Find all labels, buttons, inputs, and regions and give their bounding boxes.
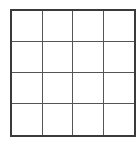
grid-cell-r3-c2 — [43, 73, 74, 104]
grid-cell-r3-c3 — [73, 73, 104, 104]
grid-4x4 — [10, 9, 136, 137]
grid-cell-r1-c3 — [73, 11, 104, 42]
grid-cell-r2-c4 — [104, 42, 135, 73]
grid-cell-r1-c1 — [12, 11, 43, 42]
grid-cell-r1-c2 — [43, 11, 74, 42]
grid-cell-r2-c1 — [12, 42, 43, 73]
grid-cell-r4-c1 — [12, 104, 43, 135]
grid-cell-r3-c1 — [12, 73, 43, 104]
grid-cell-r1-c4 — [104, 11, 135, 42]
grid-cell-r2-c2 — [43, 42, 74, 73]
grid-cell-r3-c4 — [104, 73, 135, 104]
grid-cell-r4-c2 — [43, 104, 74, 135]
grid-cell-r4-c4 — [104, 104, 135, 135]
grid-cell-r2-c3 — [73, 42, 104, 73]
grid-cell-r4-c3 — [73, 104, 104, 135]
